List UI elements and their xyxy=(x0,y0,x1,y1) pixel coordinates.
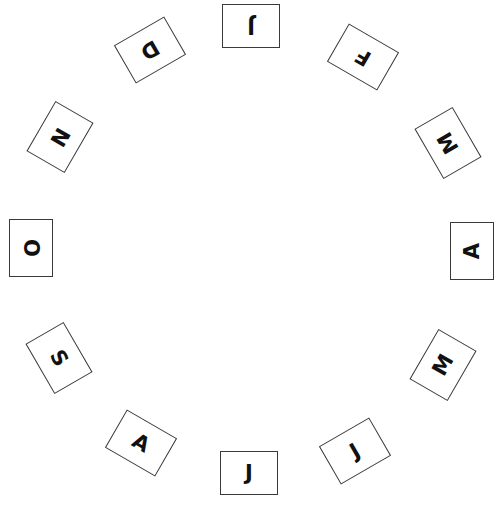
card-letter: J xyxy=(247,16,255,37)
card-letter: M xyxy=(434,129,463,158)
card-letter: F xyxy=(352,44,375,69)
card-october: O xyxy=(9,219,53,277)
card-august: A xyxy=(105,409,177,476)
card-july: J xyxy=(220,451,278,495)
card-november: N xyxy=(26,101,93,173)
card-may: M xyxy=(409,329,476,401)
card-letter: S xyxy=(46,346,72,370)
card-letter: J xyxy=(245,463,253,484)
card-march: M xyxy=(414,107,481,179)
card-january: J xyxy=(222,4,280,48)
card-letter: A xyxy=(129,430,154,456)
card-letter: O xyxy=(21,239,42,257)
card-letter: A xyxy=(462,243,483,259)
card-june: J xyxy=(319,417,391,484)
card-september: S xyxy=(25,322,92,394)
card-april: A xyxy=(450,222,494,280)
letter-circle-diagram: J F M A M J J A S O N D xyxy=(0,0,502,510)
card-december: D xyxy=(114,16,186,83)
card-letter: D xyxy=(137,37,163,64)
card-letter: J xyxy=(346,440,363,462)
card-letter: N xyxy=(47,124,74,150)
card-letter: M xyxy=(429,351,458,380)
card-february: F xyxy=(327,23,399,90)
